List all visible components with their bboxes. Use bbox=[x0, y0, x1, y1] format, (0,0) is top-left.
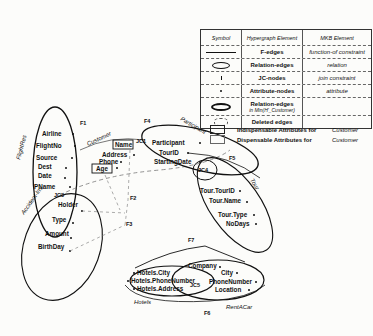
attr-startingdate: StartingDate bbox=[154, 158, 192, 166]
line-icon bbox=[206, 52, 236, 53]
jc4-label: JC4 bbox=[198, 167, 209, 173]
legend-hypergraph-attribute: Attribute-nodes bbox=[242, 85, 303, 97]
legend-mkb-attribute: attribute bbox=[303, 85, 371, 97]
legend-dispensable: Dispensable Attributes for Customer bbox=[210, 135, 358, 144]
relation-label-flightres: FlightRes bbox=[15, 134, 27, 160]
legend-row-min-relation: Relation-edgesin Min(H'_Customer) bbox=[201, 97, 371, 115]
indispensable-box-icon bbox=[210, 125, 225, 134]
legend-row-relation: Relation-edges relation bbox=[201, 58, 371, 71]
legend-hypergraph-jc: JC-nodes bbox=[242, 72, 303, 84]
attr-dest: Dest bbox=[38, 163, 53, 170]
f4-label: F4 bbox=[144, 118, 151, 124]
legend-dispensable-label: Dispensable Attributes for bbox=[237, 137, 332, 143]
legend-mkb-fedges: function-of constraint bbox=[303, 46, 371, 58]
relation-label-customer: Customer bbox=[86, 130, 113, 147]
legend-dispensable-relation: Customer bbox=[332, 137, 358, 143]
legend-header-mkb: MKB Element bbox=[303, 30, 371, 45]
legend-header-symbol: Symbol bbox=[201, 30, 242, 45]
ellipse-icon bbox=[212, 62, 230, 69]
attr-type: Type bbox=[52, 216, 67, 224]
attr-amount: Amount bbox=[45, 230, 70, 237]
attr-address: Address bbox=[102, 151, 128, 158]
f6-label: F6 bbox=[204, 310, 210, 316]
legend-indispensable-label: Indispensable Attributes for bbox=[237, 127, 332, 133]
attr-airline: Airline bbox=[42, 130, 62, 137]
relation-label-hotels: Hotels bbox=[134, 299, 151, 305]
bold-ellipse-icon bbox=[211, 103, 231, 111]
legend-row-jc: JC-nodes join constraint bbox=[201, 71, 371, 84]
f7-label: F7 bbox=[188, 237, 194, 243]
f1-label: F1 bbox=[80, 120, 86, 126]
attr-tour-name: Tour.Name bbox=[209, 197, 242, 204]
legend-header: Symbol Hypergraph Element MKB Element bbox=[201, 30, 371, 45]
attr-birthday: BirthDay bbox=[38, 243, 65, 251]
attr-participant: Participant bbox=[152, 139, 185, 147]
dot-icon bbox=[220, 90, 222, 92]
attr-company: Company bbox=[188, 262, 217, 270]
legend-header-hypergraph: Hypergraph Element bbox=[242, 30, 303, 45]
attr-hotels-city: Hotels.City bbox=[137, 269, 170, 277]
f5-label: F5 bbox=[229, 155, 235, 161]
tick-icon bbox=[221, 76, 222, 80]
legend-row-fedges: F-edges function-of constraint bbox=[201, 45, 371, 58]
attr-tour-type: Tour.Type bbox=[218, 211, 248, 219]
f3-label: F3 bbox=[126, 221, 132, 227]
attr-holder: Holder bbox=[58, 201, 78, 208]
legend-table: Symbol Hypergraph Element MKB Element F-… bbox=[200, 29, 372, 129]
attr-source: Source bbox=[36, 154, 58, 161]
relation-label-rentacar: RentACar bbox=[226, 304, 253, 310]
legend-mkb-jc: join constraint bbox=[303, 72, 371, 84]
legend-hypergraph-min-sub: in Min(H'_Customer) bbox=[242, 107, 302, 113]
attr-city: City bbox=[221, 269, 233, 277]
legend-hypergraph-relation: Relation-edges bbox=[242, 59, 303, 71]
attr-nodays: NoDays bbox=[226, 220, 250, 228]
attr-tour-tourid: Tour.TourID bbox=[200, 187, 235, 194]
attr-age: Age bbox=[96, 165, 108, 173]
dispensable-box-icon bbox=[210, 135, 225, 144]
jc3-label: JC3 bbox=[54, 192, 64, 198]
legend-hypergraph-fedges: F-edges bbox=[242, 46, 303, 58]
legend-row-attribute: Attribute-nodes attribute bbox=[201, 84, 371, 97]
attr-tourid: TourID bbox=[159, 149, 179, 156]
attr-location: Location bbox=[215, 286, 241, 293]
attr-hotels-phonenumber: Hotels.PhoneNumber bbox=[131, 277, 196, 284]
jc5-label: JC5 bbox=[190, 282, 200, 288]
relation-label-accident-ins: Accident-Ins bbox=[19, 185, 43, 216]
legend-indispensable-relation: Customer bbox=[332, 127, 358, 133]
attr-flightno: FlightNo bbox=[36, 142, 62, 150]
attr-phonenumber: PhoneNumber bbox=[209, 278, 253, 285]
legend-indispensable: Indispensable Attributes for Customer bbox=[210, 125, 358, 134]
legend-mkb-relation: relation bbox=[303, 59, 371, 71]
attr-date: Date bbox=[38, 172, 52, 179]
attr-name: Name bbox=[115, 141, 133, 148]
f2-label-a: F2 bbox=[130, 195, 136, 201]
